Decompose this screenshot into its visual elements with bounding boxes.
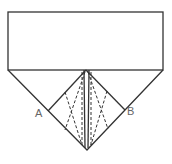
label-b: B <box>127 105 134 117</box>
center-line-left <box>84 70 85 148</box>
label-a: A <box>35 107 43 119</box>
fold-dash-left-1 <box>65 72 85 130</box>
top-rectangle <box>8 12 163 70</box>
fold-diagram: A B <box>0 0 172 164</box>
kite-edge-upper-right <box>86 70 125 110</box>
diagram-svg: A B <box>0 0 172 164</box>
center-line-right <box>88 70 89 148</box>
kite-edge-upper-left <box>48 70 86 111</box>
